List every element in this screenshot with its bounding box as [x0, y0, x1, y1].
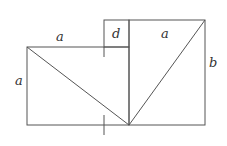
label-top-right-a: a — [161, 26, 169, 41]
geometry-diagram: a d a a b — [0, 0, 227, 146]
label-left-a: a — [15, 73, 23, 88]
label-top-left-a: a — [56, 29, 64, 44]
label-right-b: b — [209, 55, 217, 70]
label-d: d — [112, 26, 120, 41]
left-diagonal — [27, 47, 129, 125]
